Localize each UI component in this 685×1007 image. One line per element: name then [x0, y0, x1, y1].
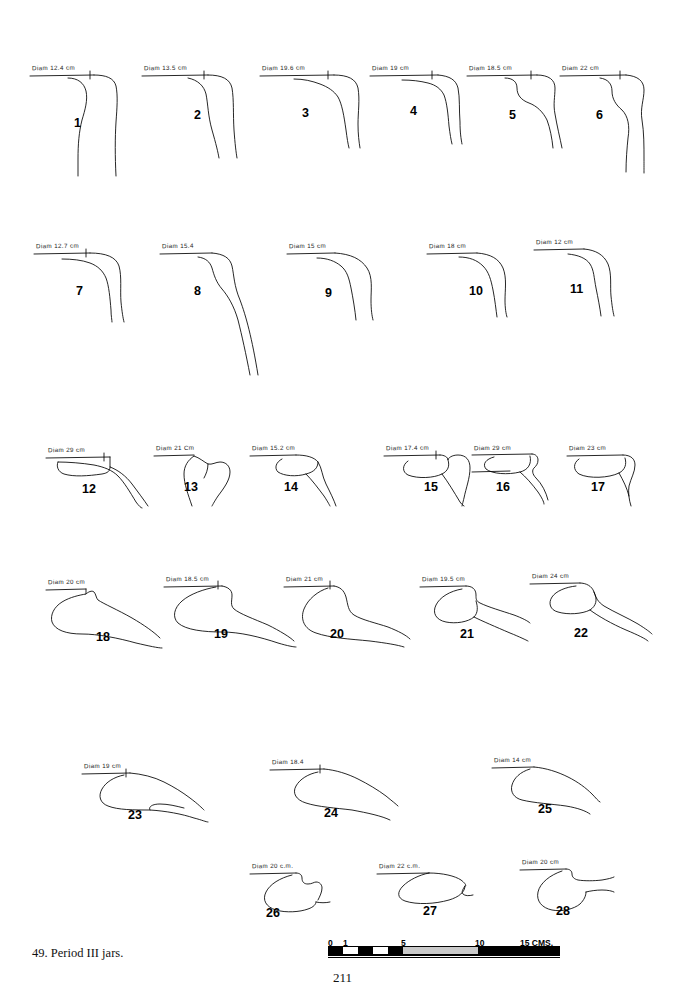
figure-number-27: 27 [423, 904, 437, 918]
figure-14: Diam 15.2 cm 14 [248, 444, 358, 506]
vessel-profile-1 [28, 64, 158, 179]
figure-number-7: 7 [76, 284, 83, 298]
vessel-profile-22 [528, 572, 658, 642]
vessel-profile-28 [518, 858, 628, 916]
diam-label-6: Diam 22 cm [562, 64, 599, 71]
diam-label-28: Diam 20 cm [522, 858, 559, 865]
vessel-profile-2 [140, 64, 265, 159]
diam-label-1: Diam 12.4 cm [32, 64, 75, 71]
diam-label-25: Diam 14 cm [494, 756, 531, 763]
plate-caption: 49. Period III jars. [32, 946, 123, 961]
diam-label-4: Diam 19 cm [372, 64, 409, 71]
diam-label-9: Diam 15 cm [289, 242, 326, 249]
figure-number-18: 18 [96, 630, 110, 644]
scale-bar: 0 1 5 10 15 CMS. [328, 936, 560, 960]
figure-27: Diam 22 c.m. 27 [375, 862, 485, 912]
figure-number-1: 1 [74, 116, 81, 130]
figure-11: Diam 12 cm 11 [532, 238, 642, 316]
figure-number-24: 24 [324, 806, 338, 820]
figure-number-26: 26 [266, 906, 280, 920]
figure-number-14: 14 [284, 480, 298, 494]
figure-number-21: 21 [460, 627, 474, 641]
vessel-profile-16 [470, 444, 570, 506]
figure-21: Diam 19.5 cm 21 [418, 575, 538, 643]
vessel-profile-12 [44, 446, 164, 508]
figure-24: Diam 18.4 24 [268, 758, 403, 820]
figure-16: Diam 29 cm 16 [470, 444, 570, 506]
vessel-profile-17 [565, 444, 665, 506]
diam-label-7: Diam 12.7 cm [36, 242, 79, 249]
vessel-profile-19 [162, 575, 302, 647]
figure-number-6: 6 [596, 108, 603, 122]
figure-number-11: 11 [570, 282, 583, 296]
vessel-profile-21 [418, 575, 538, 643]
figure-number-22: 22 [574, 626, 588, 640]
scale-segment-3-4 [373, 947, 388, 954]
figure-7: Diam 12.7 cm 7 [32, 242, 157, 322]
figure-number-20: 20 [330, 627, 344, 641]
figure-number-13: 13 [184, 480, 198, 494]
scale-segment-0-1 [329, 947, 343, 954]
diam-label-21: Diam 19.5 cm [422, 575, 465, 582]
scale-lower-rule [328, 955, 560, 958]
figure-19: Diam 18.5 cm 19 [162, 575, 302, 647]
vessel-profile-7 [32, 242, 157, 322]
scale-segment-1-2 [343, 947, 358, 954]
figure-20: Diam 21 cm 20 [282, 575, 422, 647]
figure-6: Diam 22 cm 6 [558, 64, 676, 174]
figure-number-23: 23 [128, 808, 142, 822]
figure-number-2: 2 [194, 108, 201, 122]
vessel-profile-3 [258, 64, 383, 149]
figure-12: Diam 29 cm 12 [44, 446, 164, 508]
diam-label-24: Diam 18.4 [272, 758, 304, 765]
vessel-profile-23 [80, 762, 215, 822]
vessel-profile-26 [248, 862, 348, 917]
scale-segment-10-15 [478, 947, 559, 954]
diam-label-23: Diam 19 cm [84, 762, 121, 769]
figure-10: Diam 18 cm 10 [425, 242, 535, 317]
figure-22: Diam 24 cm 22 [528, 572, 658, 642]
diam-label-13: Diam 21 Cm [156, 444, 194, 451]
figure-number-25: 25 [538, 802, 552, 816]
figure-number-12: 12 [82, 482, 96, 496]
scale-segment-2-3 [358, 947, 373, 954]
diam-label-12: Diam 29 cm [48, 446, 85, 453]
figure-17: Diam 23 cm 17 [565, 444, 665, 506]
diam-label-18: Diam 20 cm [48, 578, 85, 585]
diam-label-3: Diam 19.6 cm [262, 64, 305, 71]
diam-label-17: Diam 23 cm [569, 444, 606, 451]
diam-label-26: Diam 20 c.m. [252, 862, 293, 869]
figure-9: Diam 15 cm 9 [285, 242, 405, 322]
figure-number-10: 10 [469, 284, 483, 298]
diam-label-27: Diam 22 c.m. [379, 862, 420, 869]
figure-number-3: 3 [302, 106, 309, 120]
figure-8: Diam 15.4 8 [158, 242, 283, 377]
diam-label-14: Diam 15.2 cm [252, 444, 295, 451]
figure-number-28: 28 [556, 904, 570, 918]
figure-25: Diam 14 cm 25 [490, 756, 610, 816]
figure-26: Diam 20 c.m. 26 [248, 862, 348, 917]
diam-label-8: Diam 15.4 [162, 242, 194, 249]
figure-13: Diam 21 Cm 13 [152, 444, 242, 506]
vessel-profile-8 [158, 242, 283, 377]
vessel-profile-9 [285, 242, 405, 322]
diam-label-2: Diam 13.5 cm [144, 64, 187, 71]
pottery-plate-page: Diam 12.4 cm 1 Diam 13.5 cm 2 Diam 19.6 … [0, 0, 685, 1007]
figure-1: Diam 12.4 cm 1 [28, 64, 158, 179]
vessel-profile-14 [248, 444, 358, 506]
figure-number-8: 8 [194, 284, 201, 298]
vessel-profile-20 [282, 575, 422, 647]
figure-3: Diam 19.6 cm 3 [258, 64, 383, 149]
vessel-profile-6 [558, 64, 676, 174]
figure-number-17: 17 [591, 480, 605, 494]
vessel-profile-11 [532, 238, 642, 316]
diam-label-15: Diam 17.4 cm [386, 444, 429, 451]
diam-label-19: Diam 18.5 cm [166, 575, 209, 582]
diam-label-20: Diam 21 cm [286, 575, 323, 582]
figure-23: Diam 19 cm 23 [80, 762, 215, 822]
figure-number-15: 15 [424, 480, 438, 494]
figure-number-5: 5 [509, 108, 516, 122]
diam-label-16: Diam 29 cm [474, 444, 511, 451]
vessel-profile-10 [425, 242, 535, 317]
diam-label-11: Diam 12 cm [536, 238, 573, 245]
